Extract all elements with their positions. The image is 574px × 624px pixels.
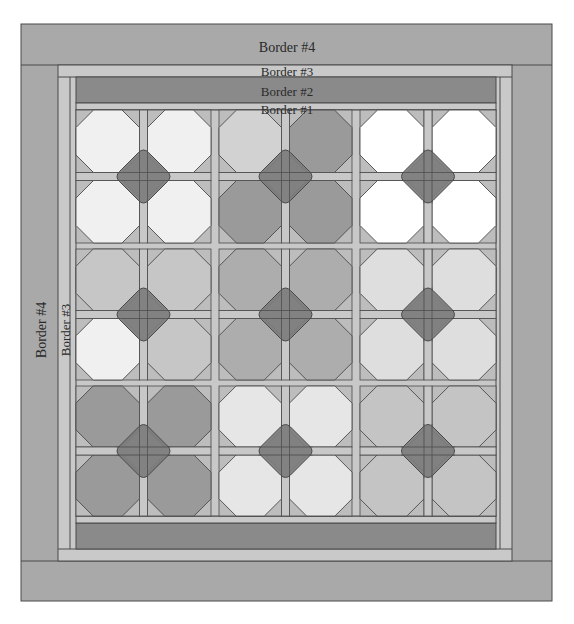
quilt-block (219, 386, 352, 516)
border2-bottom (76, 523, 496, 549)
border1-top-label: Border #1 (261, 102, 313, 117)
border4-top-label: Border #4 (259, 40, 315, 55)
quilt-block (219, 110, 352, 243)
quilt-body (76, 110, 496, 516)
border2-top-label: Border #2 (261, 84, 313, 99)
quilt-block (76, 386, 211, 516)
quilt-block (360, 386, 496, 516)
border1-bottom (76, 516, 496, 523)
border4-left-label: Border #4 (34, 302, 49, 358)
quilt-block (76, 249, 211, 380)
quilt-block (219, 249, 352, 380)
quilt-diagram: Border #4 Border #3 Border #2 Border #1 … (0, 0, 574, 624)
quilt-block (360, 249, 496, 380)
quilt-block (360, 110, 496, 243)
border3-top-label: Border #3 (261, 64, 313, 79)
quilt-block (76, 110, 211, 243)
border3-left-label: Border #3 (58, 304, 73, 356)
